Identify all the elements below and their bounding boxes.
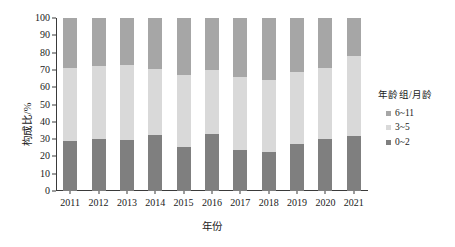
x-axis-tick-mark xyxy=(155,191,156,194)
x-axis-tick-mark xyxy=(353,191,354,194)
bar-segment xyxy=(318,18,332,68)
bar-segment xyxy=(92,139,106,191)
x-axis-tick-label: 2021 xyxy=(344,197,364,208)
bar-segment xyxy=(347,56,361,136)
bar-segment xyxy=(120,18,134,65)
bar-segment xyxy=(290,72,304,145)
x-axis-tick-mark xyxy=(98,191,99,194)
legend-swatch-icon xyxy=(386,111,391,116)
bar-segment xyxy=(148,135,162,191)
x-axis-tick-mark xyxy=(325,191,326,194)
bar-segment xyxy=(290,18,304,72)
bar-segment xyxy=(347,18,361,56)
x-axis-tick-label: 2012 xyxy=(89,197,109,208)
bar-segment xyxy=(63,18,77,68)
legend-item[interactable]: 3~5 xyxy=(378,120,432,135)
plot-area: 0102030405060708090100 20112012201320142… xyxy=(56,18,368,191)
bar-column: 2020 xyxy=(318,18,332,191)
bar-segment xyxy=(205,134,219,191)
legend-title: 年龄组/月龄 xyxy=(378,88,432,103)
x-axis-tick-label: 2020 xyxy=(315,197,335,208)
bar-column: 2012 xyxy=(92,18,106,191)
bar-segment xyxy=(177,75,191,147)
bar-segment xyxy=(233,18,247,77)
bar-segment xyxy=(63,68,77,141)
x-axis-tick-mark xyxy=(183,191,184,194)
legend-entries: 6~113~50~2 xyxy=(378,106,432,150)
legend-swatch-icon xyxy=(386,125,391,130)
bar-segment xyxy=(205,70,219,134)
x-axis-tick-label: 2011 xyxy=(60,197,80,208)
x-axis-tick-mark xyxy=(126,191,127,194)
x-axis-tick-label: 2014 xyxy=(145,197,165,208)
bar-segment xyxy=(318,139,332,191)
x-axis-tick-label: 2015 xyxy=(174,197,194,208)
bar-column: 2018 xyxy=(262,18,276,191)
legend-item[interactable]: 6~11 xyxy=(378,106,432,121)
y-axis-title: 构成比/% xyxy=(19,101,34,145)
x-axis-tick-mark xyxy=(70,191,71,194)
bar-segment xyxy=(205,18,219,70)
bar-segment xyxy=(290,144,304,191)
legend-label: 0~2 xyxy=(395,135,410,150)
bar-segment xyxy=(92,66,106,139)
bar-column: 2016 xyxy=(205,18,219,191)
bar-segment xyxy=(177,147,191,191)
bar-column: 2019 xyxy=(290,18,304,191)
x-axis-tick-label: 2019 xyxy=(287,197,307,208)
bar-column: 2021 xyxy=(347,18,361,191)
x-axis-tick-mark xyxy=(297,191,298,194)
bar-segment xyxy=(262,18,276,80)
x-axis-tick-mark xyxy=(211,191,212,194)
bar-segment xyxy=(148,69,162,135)
bar-segment xyxy=(262,152,276,191)
x-axis-tick-mark xyxy=(268,191,269,194)
bar-segment xyxy=(63,141,77,191)
chart-figure: 构成比/% 0102030405060708090100 20112012201… xyxy=(0,0,455,247)
x-axis-tick-label: 2018 xyxy=(259,197,279,208)
bar-column: 2017 xyxy=(233,18,247,191)
bar-segment xyxy=(92,18,106,66)
bar-column: 2011 xyxy=(63,18,77,191)
bar-column: 2015 xyxy=(177,18,191,191)
legend-swatch-icon xyxy=(386,140,391,145)
bar-segment xyxy=(318,68,332,139)
legend-label: 6~11 xyxy=(395,106,414,121)
chart-legend: 年龄组/月龄 6~113~50~2 xyxy=(378,88,432,150)
bar-segment xyxy=(233,77,247,151)
bar-column: 2014 xyxy=(148,18,162,191)
bar-segment xyxy=(177,18,191,75)
bar-segment xyxy=(120,65,134,140)
x-axis-title: 年份 xyxy=(56,218,368,233)
x-axis-tick-mark xyxy=(240,191,241,194)
bar-segment xyxy=(233,150,247,191)
bar-segment xyxy=(148,18,162,69)
bar-segment xyxy=(120,140,134,191)
bar-segment xyxy=(347,136,361,191)
bar-segment xyxy=(262,80,276,152)
legend-label: 3~5 xyxy=(395,120,410,135)
bar-group: 2011201220132014201520162017201820192020… xyxy=(56,18,368,191)
x-axis-tick-label: 2013 xyxy=(117,197,137,208)
x-axis-tick-label: 2017 xyxy=(230,197,250,208)
bar-column: 2013 xyxy=(120,18,134,191)
x-axis-tick-label: 2016 xyxy=(202,197,222,208)
legend-item[interactable]: 0~2 xyxy=(378,135,432,150)
